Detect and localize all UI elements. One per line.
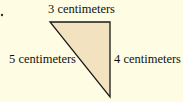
label-hypotenuse: 5 centimeters — [9, 52, 76, 67]
label-right-side: 4 centimeters — [114, 52, 181, 67]
bullet-dot — [1, 14, 3, 16]
label-top-side: 3 centimeters — [48, 2, 115, 17]
